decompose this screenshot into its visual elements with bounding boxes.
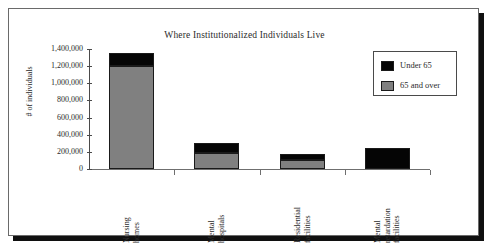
bar-segment-65-and-over (109, 66, 154, 169)
y-tick-mark (87, 49, 92, 50)
legend-swatch (381, 61, 394, 71)
x-axis-category-label: Residentialfacilities (293, 177, 359, 196)
category-label-line: Mental (373, 177, 383, 243)
category-separator (345, 170, 346, 175)
y-tick-label: 200,000 (25, 147, 83, 156)
bar-segment-under-65 (109, 53, 154, 66)
category-label-line: Nursing (122, 177, 132, 243)
legend-label: Under 65 (400, 60, 432, 70)
bar-stack (194, 143, 239, 169)
y-tick-label: 1,000,000 (25, 78, 83, 87)
category-label-line: Mental (207, 177, 217, 243)
chart-figure: Where Institutionalized Individuals Live… (0, 0, 490, 247)
bar-stack (365, 148, 410, 169)
y-tick-label: 600,000 (25, 113, 83, 122)
y-tick-mark (87, 135, 92, 136)
figure-frame: Where Institutionalized Individuals Live… (8, 8, 479, 236)
x-axis-category-label: Mentalretardationfacilities (373, 177, 439, 206)
y-tick-label: 800,000 (25, 95, 83, 104)
y-tick-label: 400,000 (25, 130, 83, 139)
y-tick-label: 1,200,000 (25, 61, 83, 70)
plot-area: 0200,000400,000600,000800,0001,000,0001,… (9, 9, 478, 235)
category-label-line: homes (132, 177, 142, 243)
y-tick-mark (87, 100, 92, 101)
x-axis-category-label: Mentalhospitals (207, 177, 273, 196)
category-label-line: facilities (302, 177, 312, 243)
y-tick-mark (87, 83, 92, 84)
bar-stack (109, 53, 154, 169)
bar-segment-65-and-over (280, 160, 325, 169)
category-label-line: facilities (392, 177, 402, 243)
y-tick-label: 0 (25, 164, 83, 173)
category-label-line: retardation (383, 177, 393, 243)
y-tick-mark (87, 152, 92, 153)
bar-segment-65-and-over (194, 153, 239, 169)
figure-shadow-bottom (13, 236, 484, 241)
figure-shadow-right (479, 13, 484, 241)
category-separator (430, 170, 431, 175)
legend-swatch (381, 81, 394, 91)
category-separator (260, 170, 261, 175)
bar-stack (280, 154, 325, 169)
y-tick-mark (87, 169, 92, 170)
legend-label: 65 and over (400, 80, 440, 90)
y-tick-mark (87, 118, 92, 119)
category-label-line: hospitals (217, 177, 227, 243)
y-tick-mark (87, 66, 92, 67)
x-axis-category-label: Nursinghomes (122, 177, 188, 196)
chart-legend: Under 6565 and over (373, 51, 457, 96)
bar-segment-under-65 (365, 148, 410, 169)
bar-segment-under-65 (280, 154, 325, 161)
category-label-line: Residential (293, 177, 303, 243)
category-separator (174, 170, 175, 175)
y-tick-label: 1,400,000 (25, 44, 83, 53)
bar-segment-under-65 (194, 143, 239, 152)
